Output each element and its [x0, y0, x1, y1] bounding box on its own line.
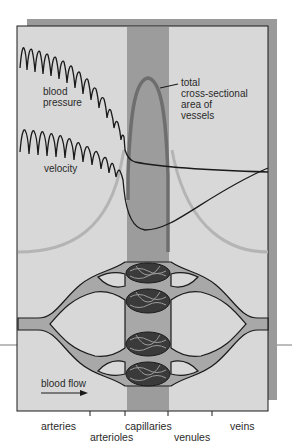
axis-label-capillaries: capillaries	[125, 420, 172, 432]
axis-label-venules: venules	[174, 431, 210, 442]
velocity-label: velocity	[44, 163, 77, 174]
axis-label-veins: veins	[230, 420, 255, 432]
axis-label-arteries: arteries	[41, 420, 76, 432]
blood-pressure-label: blood pressure	[43, 86, 82, 108]
blood-flow-label: blood flow	[41, 378, 86, 389]
capillary-bed-1	[126, 263, 170, 283]
area-label-line3: area of	[181, 99, 248, 110]
capillary-bed-3	[126, 332, 170, 356]
area-label-line1: total	[181, 77, 248, 88]
axis-label-arterioles: arterioles	[90, 431, 133, 442]
capillary-bed-2	[126, 289, 170, 313]
area-label: total cross-sectional area of vessels	[181, 77, 248, 121]
blood-pressure-label-line2: pressure	[43, 97, 82, 108]
blood-pressure-label-line1: blood	[43, 86, 82, 97]
area-label-line4: vessels	[181, 110, 248, 121]
circulation-diagram	[0, 0, 292, 442]
capillary-bed-4	[126, 362, 170, 386]
axis-ticks	[90, 411, 212, 416]
area-label-line2: cross-sectional	[181, 88, 248, 99]
